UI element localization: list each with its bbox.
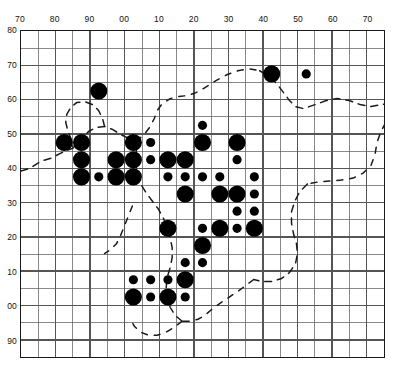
y-tick-label: 60 [2, 94, 17, 104]
coastline-segment [136, 141, 182, 321]
x-tick-label: 00 [119, 14, 129, 24]
coastline-segment [260, 71, 384, 109]
plot-area[interactable] [20, 30, 385, 358]
y-tick-label: 10 [2, 267, 17, 277]
x-tick-label: 50 [293, 14, 303, 24]
coastline-segment [66, 102, 105, 147]
distribution-map-figure: 7080900010203040506070 80706050403020100… [0, 0, 396, 370]
coastline-segment [182, 279, 254, 321]
x-tick-label: 40 [258, 14, 268, 24]
y-tick-label: 80 [2, 25, 17, 35]
x-tick-label: 60 [328, 14, 338, 24]
y-tick-label: 90 [2, 336, 17, 346]
x-tick-label: 10 [154, 14, 164, 24]
x-tick-label: 70 [15, 14, 25, 24]
coastline-segment [21, 126, 136, 171]
coastline-segment [254, 184, 308, 281]
x-tick-label: 20 [189, 14, 199, 24]
x-tick-label: 90 [85, 14, 95, 24]
coastline-segment [130, 319, 182, 335]
coastline-segment [105, 206, 133, 254]
y-tick-label: 20 [2, 232, 17, 242]
y-tick-label: 40 [2, 163, 17, 173]
y-tick-label: 00 [2, 301, 17, 311]
x-tick-label: 30 [224, 14, 234, 24]
coastline-outline [21, 31, 384, 357]
coastline-segment [136, 69, 259, 142]
y-tick-label: 70 [2, 60, 17, 70]
y-tick-label: 30 [2, 198, 17, 208]
x-tick-label: 80 [50, 14, 60, 24]
x-tick-label: 70 [363, 14, 373, 24]
coastline-segment [307, 103, 384, 185]
y-tick-label: 50 [2, 129, 17, 139]
